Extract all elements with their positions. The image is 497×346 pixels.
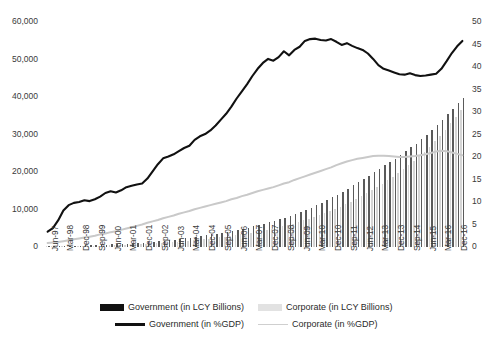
- x-tick-mar-01: Mar-01: [130, 225, 138, 251]
- x-tick-jun-03: Jun-03: [178, 226, 186, 251]
- y-right-tick-7: 35: [472, 85, 481, 94]
- legend-swatch-line-government: [115, 323, 145, 326]
- y-right-tick-9: 45: [472, 40, 481, 49]
- x-tick-sep-02: Sep-02: [162, 225, 170, 251]
- x-tick-mar-10: Mar-10: [319, 225, 327, 251]
- y-right-tick-8: 40: [472, 62, 481, 71]
- x-tick-jun-09: Jun-09: [304, 226, 312, 251]
- legend-swatch-line-corporate: [258, 324, 288, 326]
- line-government-gdp: [48, 39, 463, 232]
- x-tick-sep-05: Sep-05: [225, 225, 233, 251]
- x-tick-jun-97: Jun-97: [52, 226, 60, 251]
- x-tick-jun-00: Jun-00: [115, 226, 123, 251]
- x-tick-dec-07: Dec-07: [272, 225, 280, 251]
- x-tick-dec-10: Dec-10: [335, 225, 343, 251]
- x-tick-sep-99: Sep-99: [99, 225, 107, 251]
- y-right-tick-3: 15: [472, 175, 481, 184]
- legend-label-government-gdp: Government (in %GDP): [149, 320, 244, 329]
- legend-row-lines: Government (in %GDP) Corporate (in %GDP): [0, 316, 497, 333]
- legend-item-corporate-lcy[interactable]: Corporate (in LCY Billions): [244, 303, 458, 312]
- legend-item-government-gdp[interactable]: Government (in %GDP): [39, 320, 244, 329]
- x-tick-jun-12: Jun-12: [367, 226, 375, 251]
- x-tick-dec-98: Dec-98: [83, 225, 91, 251]
- y-left-tick-1: 10,000: [0, 205, 38, 214]
- legend-item-corporate-gdp[interactable]: Corporate (in %GDP): [244, 320, 458, 329]
- x-tick-mar-04: Mar-04: [193, 225, 201, 251]
- legend-row-bars: Government (in LCY Billions) Corporate (…: [0, 299, 497, 316]
- y-right-tick-0: 0: [472, 242, 477, 251]
- y-right-tick-6: 30: [472, 107, 481, 116]
- y-right-tick-4: 20: [472, 152, 481, 161]
- y-left-tick-4: 40,000: [0, 92, 38, 101]
- x-tick-mar-98: Mar-98: [67, 225, 75, 251]
- x-tick-dec-04: Dec-04: [209, 225, 217, 251]
- x-tick-dec-13: Dec-13: [398, 225, 406, 251]
- legend-label-corporate-gdp: Corporate (in %GDP): [292, 320, 378, 329]
- legend-label-corporate-lcy: Corporate (in LCY Billions): [286, 303, 392, 312]
- y-right-tick-1: 5: [472, 220, 477, 229]
- plot-area: [45, 22, 465, 247]
- y-left-tick-5: 50,000: [0, 55, 38, 64]
- x-tick-dec-01: Dec-01: [146, 225, 154, 251]
- y-right-tick-5: 25: [472, 130, 481, 139]
- legend-swatch-bar-corporate: [258, 304, 282, 311]
- x-tick-mar-13: Mar-13: [382, 225, 390, 251]
- x-tick-sep-11: Sep-11: [351, 225, 359, 251]
- x-tick-dec-16: Dec-16: [461, 225, 469, 251]
- y-left-tick-3: 30,000: [0, 130, 38, 139]
- legend-item-government-lcy[interactable]: Government (in LCY Billions): [39, 303, 244, 312]
- x-tick-jun-15: Jun-15: [430, 226, 438, 251]
- legend-label-government-lcy: Government (in LCY Billions): [128, 303, 244, 312]
- y-left-tick-0: 0: [0, 242, 38, 251]
- x-tick-mar-16: Mar-16: [445, 225, 453, 251]
- x-tick-jun-06: Jun-06: [241, 226, 249, 251]
- chart-legend: Government (in LCY Billions) Corporate (…: [0, 299, 497, 333]
- y-left-tick-2: 20,000: [0, 167, 38, 176]
- x-tick-sep-14: Sep-14: [414, 225, 422, 251]
- x-tick-sep-08: Sep-08: [288, 225, 296, 251]
- y-left-tick-6: 60,000: [0, 17, 38, 26]
- y-right-tick-10: 50: [472, 17, 481, 26]
- x-tick-mar-07: Mar-07: [256, 225, 264, 251]
- lines-layer: [45, 22, 465, 247]
- chart-root: 010,00020,00030,00040,00050,00060,000 05…: [0, 0, 497, 346]
- y-right-tick-2: 10: [472, 197, 481, 206]
- legend-swatch-bar-government: [100, 304, 124, 311]
